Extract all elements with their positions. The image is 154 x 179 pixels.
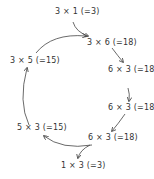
arrow-n3-n4 xyxy=(128,88,129,101)
node-3x5: 3 × 5 (=15) xyxy=(10,56,60,65)
arrow-n5-n7 xyxy=(44,136,92,146)
arrow-n4-n5 xyxy=(112,114,125,131)
node-6x3-c: 6 × 3 (=18) xyxy=(88,133,138,142)
arrow-n2-n3 xyxy=(112,48,123,62)
arrow-n5-n6 xyxy=(78,145,90,158)
arrow-n7-n8 xyxy=(23,68,29,125)
node-3x6: 3 × 6 (=18) xyxy=(87,38,137,47)
node-6x3-a: 6 × 3 (=18) xyxy=(108,65,154,74)
cycle-arrows xyxy=(0,0,154,179)
arrow-n8-n2 xyxy=(36,36,86,53)
node-5x3: 5 × 3 (=15) xyxy=(17,123,67,132)
arrow-n1-n2 xyxy=(73,22,88,36)
node-6x3-b: 6 × 3 (=18) xyxy=(108,103,154,112)
node-3x1: 3 × 1 (=3) xyxy=(55,7,100,16)
node-1x3: 1 × 3 (=3) xyxy=(61,161,106,170)
